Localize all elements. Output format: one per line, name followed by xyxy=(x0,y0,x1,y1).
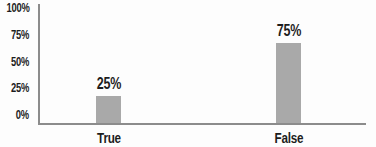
bar-true: 25% True xyxy=(96,96,121,123)
bar-false: 75% False xyxy=(276,43,301,123)
y-axis-tick-label-0: 0% xyxy=(16,109,29,121)
bar-chart: 100% 75% 50% 25% 0% 25% True 75% False xyxy=(0,0,376,147)
y-axis-tick-label-75: 75% xyxy=(11,29,29,41)
x-axis-line xyxy=(38,123,366,125)
y-axis-line xyxy=(38,4,40,125)
x-axis-category-label-false: False xyxy=(274,130,303,145)
y-axis-tick-label-100: 100% xyxy=(6,2,29,14)
bar-value-label-false: 75% xyxy=(276,23,300,39)
y-axis-tick-label-25: 25% xyxy=(11,82,29,94)
bar-value-label-true: 25% xyxy=(96,76,120,92)
y-axis-tick-label-50: 50% xyxy=(11,56,29,68)
x-axis-category-label-true: True xyxy=(97,130,121,145)
